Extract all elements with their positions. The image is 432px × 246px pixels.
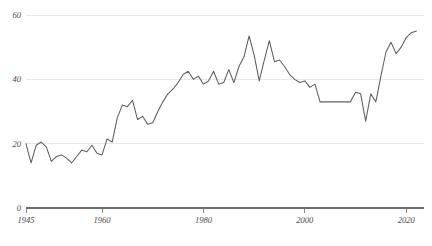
x-tick-label-1960: 1960	[94, 215, 112, 225]
y-tick-label-60: 60	[13, 10, 22, 20]
x-tick-labels-group: 19451960198020002020	[18, 215, 416, 225]
chart-container: 0204060 19451960198020002020	[0, 0, 432, 246]
y-tick-label-0: 0	[17, 203, 22, 213]
y-tick-label-40: 40	[13, 74, 22, 84]
x-tick-label-1980: 1980	[195, 215, 213, 225]
tick-marks-group	[26, 209, 406, 213]
x-tick-label-2020: 2020	[398, 215, 416, 225]
line-chart: 0204060 19451960198020002020	[0, 0, 432, 246]
y-tick-labels-group: 0204060	[13, 10, 22, 213]
x-tick-label-2000: 2000	[296, 215, 314, 225]
y-tick-label-20: 20	[13, 139, 22, 149]
x-tick-label-1945: 1945	[18, 215, 35, 225]
